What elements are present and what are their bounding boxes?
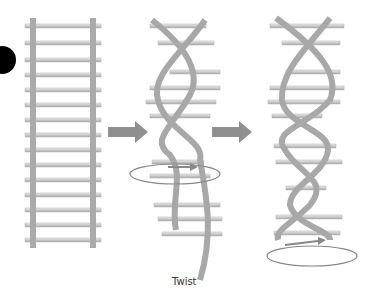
dna-twist-diagram: Twist bbox=[0, 0, 370, 292]
arrow-right-icon bbox=[212, 121, 252, 143]
rotation-ellipse bbox=[267, 246, 357, 266]
partially-twisted-ladder bbox=[130, 20, 222, 280]
arrow-right-icon bbox=[108, 121, 148, 143]
twist-caption: Twist bbox=[172, 276, 197, 287]
straight-ladder bbox=[25, 18, 101, 248]
bullet-icon bbox=[0, 46, 16, 74]
rotation-arrow-icon bbox=[318, 237, 326, 245]
diagram-canvas bbox=[0, 0, 370, 292]
double-helix bbox=[267, 18, 357, 266]
